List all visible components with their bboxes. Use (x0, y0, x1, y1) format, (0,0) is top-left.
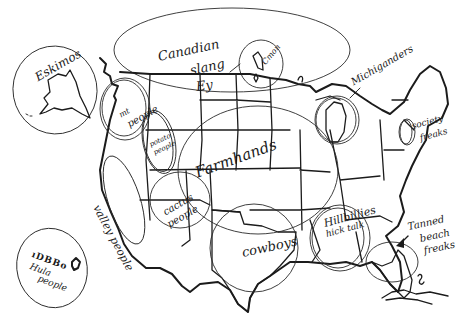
state-lines (140, 74, 414, 262)
canadian-leader (230, 64, 240, 72)
squiggle-mark (382, 290, 448, 304)
texas-outline (212, 210, 296, 312)
key-mark (418, 274, 424, 284)
michigan-circle (316, 98, 356, 142)
sketch-canvas: Eskimos Canadian slang Ey Cmon Michigand… (0, 0, 474, 322)
society-circle (400, 120, 412, 144)
arrowhead-icon (396, 238, 404, 248)
hawaii-island (72, 258, 80, 270)
lake-mark (298, 76, 303, 82)
aleutian-islands (26, 114, 32, 116)
alaska-circle (6, 39, 104, 140)
canada-island-shape (253, 52, 263, 82)
us-outline (100, 58, 448, 312)
label-ey: Ey (195, 78, 213, 93)
